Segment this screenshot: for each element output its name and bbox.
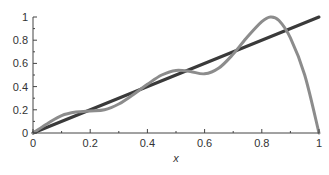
y-tick-label: 0.6 (13, 57, 28, 69)
x-tick-label: 0.8 (254, 137, 269, 149)
x-tick-label: 0.2 (83, 137, 98, 149)
x-axis: 00.20.40.60.81 (30, 129, 322, 149)
x-axis-title: x (172, 152, 179, 164)
y-axis: 00.20.40.60.81 (13, 11, 37, 139)
line-chart: 00.20.40.60.81 00.20.40.60.81 x (0, 0, 329, 175)
x-tick-label: 0.4 (140, 137, 155, 149)
y-tick-label: 0.4 (13, 81, 28, 93)
y-tick-label: 0 (22, 127, 28, 139)
y-tick-label: 0.8 (13, 34, 28, 46)
x-tick-label: 0 (30, 137, 36, 149)
series-line-linear (33, 17, 319, 133)
plot-series (33, 17, 319, 133)
x-tick-label: 1 (316, 137, 322, 149)
y-tick-label: 0.2 (13, 104, 28, 116)
x-tick-label: 0.6 (197, 137, 212, 149)
y-tick-label: 1 (22, 11, 28, 23)
